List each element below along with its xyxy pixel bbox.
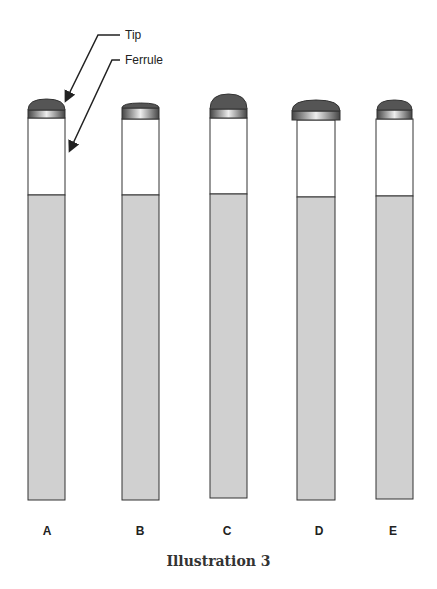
tip-callout-label: Tip [125,28,141,42]
stick-c [210,94,247,498]
ferrule-callout-label: Ferrule [125,53,163,67]
tip-callout-arrow [66,35,120,100]
cue-stick-diagram [0,0,437,589]
tip-icon [210,94,247,109]
tip-icon [122,103,159,108]
stick-label-c: C [207,524,247,538]
tip-icon [28,99,65,110]
ferrule-callout-arrow [70,60,120,150]
figure-caption: Illustration 3 [0,553,437,569]
tip-icon [377,100,412,110]
stick-b [122,103,159,500]
stick-label-b: B [120,524,160,538]
stick-d [292,100,340,500]
stick-e [376,100,413,499]
tip-icon [292,100,340,111]
stick-label-a: A [27,524,67,538]
stick-label-e: E [373,524,413,538]
stick-a [28,99,65,500]
stick-label-d: D [299,524,339,538]
